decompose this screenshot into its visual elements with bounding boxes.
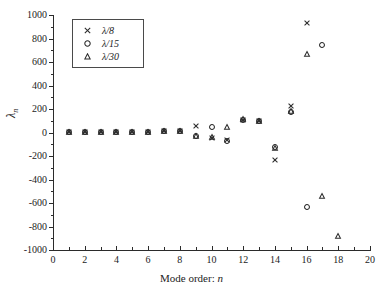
legend-marker-cross-icon <box>77 27 97 34</box>
data-point-triangle <box>97 129 104 136</box>
x-tick-label: 14 <box>270 255 280 265</box>
x-tick-mark-minor <box>69 247 70 250</box>
y-tick-mark <box>49 133 54 134</box>
data-point-cross <box>303 20 310 27</box>
y-tick-mark <box>49 62 54 63</box>
y-tick-mark-minor <box>51 74 54 75</box>
data-point-triangle <box>129 129 136 136</box>
y-tick-mark <box>49 109 54 110</box>
data-point-triangle <box>224 124 231 131</box>
data-point-triangle <box>240 116 247 123</box>
y-tick-mark <box>49 86 54 87</box>
data-point-triangle <box>113 129 120 136</box>
data-point-cross <box>81 129 88 136</box>
x-tick-mark-minor <box>259 247 260 250</box>
data-point-circle <box>192 133 199 140</box>
y-tick-mark-minor <box>51 215 54 216</box>
x-tick-label: 6 <box>146 255 151 265</box>
y-tick-mark-minor <box>51 121 54 122</box>
y-axis-title-symbol: λ <box>4 113 18 118</box>
x-tick-label: 18 <box>333 255 343 265</box>
data-point-circle <box>66 129 73 136</box>
legend-label: λ/30 <box>97 51 119 62</box>
y-tick-mark <box>49 203 54 204</box>
y-tick-mark <box>49 39 54 40</box>
x-tick-mark <box>116 246 117 251</box>
y-tick-mark <box>49 180 54 181</box>
data-point-cross <box>129 129 136 136</box>
y-tick-label: 200 <box>32 104 47 114</box>
legend-marker-circle-icon <box>77 40 97 47</box>
x-tick-label: 8 <box>177 255 182 265</box>
data-point-cross <box>161 128 168 135</box>
x-tick-mark-minor <box>354 247 355 250</box>
x-tick-mark-minor <box>227 247 228 250</box>
x-tick-label: 2 <box>82 255 87 265</box>
legend-marker-triangle-icon <box>77 53 97 60</box>
y-tick-label: 800 <box>32 34 47 44</box>
legend-item: λ/15 <box>77 37 140 50</box>
data-point-cross <box>256 118 263 125</box>
y-tick-mark <box>49 15 54 16</box>
data-point-cross <box>272 157 279 164</box>
y-tick-label: 1000 <box>27 10 47 20</box>
data-point-triangle <box>192 133 199 140</box>
x-tick-mark <box>148 246 149 251</box>
x-tick-mark-minor <box>132 247 133 250</box>
x-tick-label: 12 <box>238 255 248 265</box>
data-point-circle <box>224 137 231 144</box>
x-axis-title: Mode order: n <box>0 272 383 284</box>
data-point-circle <box>161 128 168 135</box>
x-tick-label: 10 <box>207 255 217 265</box>
y-tick-mark-minor <box>51 238 54 239</box>
x-tick-label: 16 <box>302 255 312 265</box>
x-tick-mark <box>53 246 54 251</box>
x-tick-mark <box>212 246 213 251</box>
x-tick-mark <box>275 246 276 251</box>
legend-box: λ/8λ/15λ/30 <box>72 19 144 68</box>
data-point-triangle <box>303 51 310 58</box>
x-tick-mark <box>370 246 371 251</box>
data-point-cross <box>177 128 184 135</box>
data-point-circle <box>240 117 247 124</box>
data-point-cross <box>145 128 152 135</box>
x-tick-label: 0 <box>51 255 56 265</box>
y-tick-mark-minor <box>51 168 54 169</box>
legend-item: λ/8 <box>77 24 140 37</box>
y-axis-title: λn <box>4 109 20 118</box>
x-tick-label: 20 <box>365 255 375 265</box>
y-tick-label: -1000 <box>24 245 47 255</box>
data-point-triangle <box>335 233 342 240</box>
data-point-triangle <box>288 108 295 115</box>
y-tick-label: 400 <box>32 81 47 91</box>
data-point-triangle <box>256 118 263 125</box>
data-point-cross <box>208 135 215 142</box>
y-tick-label: 600 <box>32 57 47 67</box>
x-tick-mark-minor <box>322 247 323 250</box>
data-point-circle <box>319 42 326 49</box>
data-point-triangle <box>66 129 73 136</box>
y-tick-label: -200 <box>29 151 47 161</box>
y-tick-label: -600 <box>29 198 47 208</box>
data-point-circle <box>272 143 279 150</box>
data-point-circle <box>97 129 104 136</box>
y-tick-label: 0 <box>42 128 47 138</box>
data-point-cross <box>224 137 231 144</box>
data-point-circle <box>208 124 215 131</box>
x-tick-mark <box>338 246 339 251</box>
y-tick-mark-minor <box>51 191 54 192</box>
legend-item: λ/30 <box>77 50 140 63</box>
x-tick-mark-minor <box>291 247 292 250</box>
y-axis-title-subscript: n <box>11 109 20 113</box>
data-point-cross <box>66 129 73 136</box>
y-tick-label: -400 <box>29 175 47 185</box>
data-point-cross <box>240 116 247 123</box>
data-point-triangle <box>145 128 152 135</box>
data-point-triangle <box>272 144 279 151</box>
data-point-circle <box>129 129 136 136</box>
data-point-circle <box>288 109 295 116</box>
x-tick-mark <box>307 246 308 251</box>
data-point-triangle <box>177 128 184 135</box>
y-tick-mark-minor <box>51 50 54 51</box>
data-point-cross <box>288 103 295 110</box>
